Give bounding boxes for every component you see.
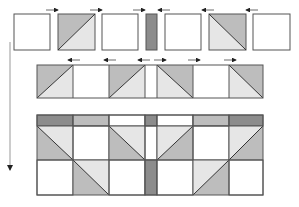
quilt-diagram xyxy=(0,0,299,207)
piece-square xyxy=(165,14,201,50)
piece-square xyxy=(253,14,290,50)
piece-square xyxy=(102,14,138,50)
assembled-block xyxy=(37,115,263,195)
piece-strip xyxy=(146,14,157,50)
row2-strip xyxy=(37,65,263,98)
piece-hst xyxy=(58,14,95,50)
piece-square xyxy=(14,14,50,50)
row1-pieces xyxy=(14,14,290,50)
piece-hst xyxy=(209,14,246,50)
